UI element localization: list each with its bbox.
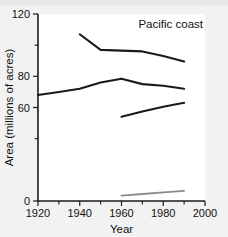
y-tick-label-80: 80 <box>18 70 30 82</box>
x-tick-label-2000: 2000 <box>193 207 217 219</box>
y-tick-label-60: 60 <box>18 102 30 114</box>
series-line-series-3 <box>122 103 185 117</box>
x-tick-label-1940: 1940 <box>68 207 92 219</box>
region-annotation: Pacific coast <box>138 18 203 30</box>
x-tick-label-1980: 1980 <box>151 207 175 219</box>
y-tick-label-120: 120 <box>12 8 30 20</box>
series-line-series-1 <box>80 34 184 61</box>
series-line-series-4 <box>122 191 185 196</box>
chart-figure: 0608012019201940196019802000Pacific coas… <box>0 0 228 237</box>
x-axis-title: Year <box>110 223 133 235</box>
y-axis-title: Area (millions of acres) <box>3 49 15 167</box>
y-tick-label-0: 0 <box>24 195 30 207</box>
x-tick-label-1920: 1920 <box>26 207 50 219</box>
series-line-series-2 <box>38 79 184 95</box>
line-chart: 0608012019201940196019802000Pacific coas… <box>0 0 228 237</box>
x-tick-label-1960: 1960 <box>109 207 133 219</box>
